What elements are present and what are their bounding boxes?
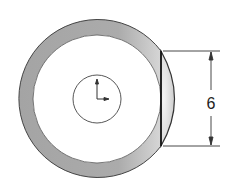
cut-segment xyxy=(161,51,175,146)
cad-drawing: 6 xyxy=(0,0,233,184)
arrowhead-top-icon xyxy=(209,52,213,60)
arrowhead-bottom-icon xyxy=(209,137,213,145)
dimension-label[interactable]: 6 xyxy=(207,95,216,112)
